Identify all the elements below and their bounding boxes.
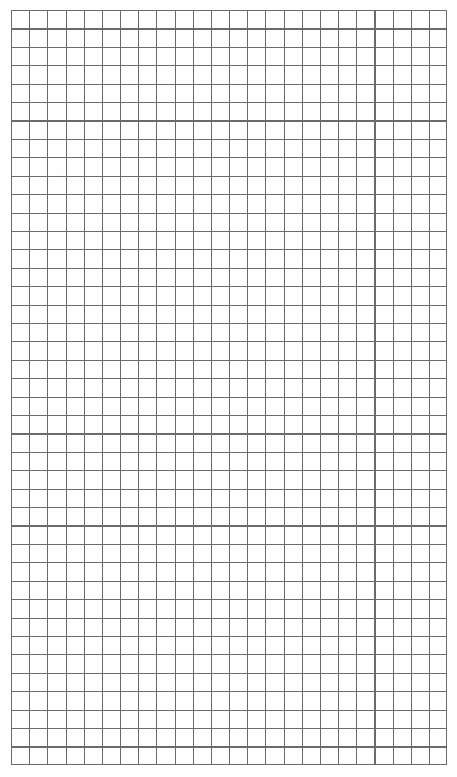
grid-lines (11, 10, 447, 765)
grid-paper-sheet (11, 10, 447, 765)
page-canvas (0, 0, 457, 777)
